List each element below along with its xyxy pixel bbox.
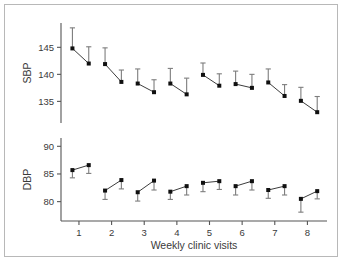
data-point-dbp-b-8 [315, 189, 319, 193]
y-tick-label-dbp-1: 85 [43, 168, 54, 179]
connector-sbp-5 [203, 75, 219, 86]
figure-frame: 145140135SBP908580DBP12345678Weekly clin… [4, 4, 338, 257]
connector-sbp-1 [72, 48, 88, 63]
data-point-dbp-a-5 [201, 181, 205, 185]
data-point-dbp-a-8 [299, 197, 303, 201]
data-point-sbp-b-2 [119, 80, 123, 84]
x-tick-label-3: 3 [142, 227, 147, 238]
data-point-dbp-a-1 [70, 168, 74, 172]
connector-dbp-5 [203, 181, 219, 183]
connector-sbp-2 [105, 64, 121, 82]
x-tick-label-5: 5 [207, 227, 212, 238]
data-point-sbp-a-2 [103, 62, 107, 66]
data-point-dbp-a-3 [136, 190, 140, 194]
connector-sbp-6 [236, 84, 252, 88]
data-point-sbp-b-7 [283, 94, 287, 98]
data-point-dbp-a-7 [266, 188, 270, 192]
data-point-sbp-b-1 [87, 62, 91, 66]
y-tick-label-dbp-2: 80 [43, 196, 54, 207]
connector-sbp-4 [170, 84, 186, 95]
x-tick-label-4: 4 [174, 227, 179, 238]
axis-title-dbp: DBP [21, 169, 33, 191]
data-point-dbp-b-4 [185, 184, 189, 188]
data-point-dbp-a-4 [168, 190, 172, 194]
data-point-dbp-a-6 [234, 184, 238, 188]
connector-sbp-3 [138, 84, 154, 93]
x-tick-label-8: 8 [305, 227, 310, 238]
data-point-sbp-a-4 [168, 82, 172, 86]
data-point-sbp-b-4 [185, 92, 189, 96]
data-point-sbp-b-6 [250, 86, 254, 90]
data-point-sbp-a-7 [266, 80, 270, 84]
data-point-dbp-b-3 [152, 179, 156, 183]
blood-pressure-chart: 145140135SBP908580DBP12345678Weekly clin… [5, 5, 339, 258]
data-point-sbp-a-5 [201, 73, 205, 77]
y-tick-label-sbp-1: 140 [38, 69, 54, 80]
data-point-sbp-a-3 [136, 82, 140, 86]
data-point-dbp-b-2 [119, 178, 123, 182]
axis-title-sbp: SBP [21, 62, 33, 83]
data-point-sbp-b-8 [315, 110, 319, 114]
data-point-sbp-a-1 [70, 46, 74, 50]
x-tick-label-1: 1 [76, 227, 81, 238]
connector-dbp-1 [72, 165, 88, 170]
data-point-sbp-a-8 [299, 99, 303, 103]
data-point-dbp-a-2 [103, 189, 107, 193]
y-tick-label-dbp-0: 90 [43, 141, 54, 152]
connector-sbp-8 [301, 101, 317, 112]
data-point-sbp-b-3 [152, 90, 156, 94]
connector-dbp-8 [301, 191, 317, 199]
y-tick-label-sbp-0: 145 [38, 42, 54, 53]
data-point-dbp-b-6 [250, 179, 254, 183]
data-point-sbp-b-5 [217, 84, 221, 88]
connector-dbp-6 [236, 181, 252, 186]
y-tick-label-sbp-2: 135 [38, 96, 54, 107]
data-point-sbp-a-6 [234, 82, 238, 86]
x-axis-title: Weekly clinic visits [151, 239, 238, 251]
x-tick-label-6: 6 [239, 227, 244, 238]
chart-canvas: 145140135SBP908580DBP12345678Weekly clin… [5, 5, 339, 258]
data-point-dbp-b-1 [87, 163, 91, 167]
x-tick-label-7: 7 [272, 227, 277, 238]
x-tick-label-2: 2 [109, 227, 114, 238]
connector-dbp-7 [268, 186, 284, 190]
connector-dbp-4 [170, 186, 186, 192]
data-point-dbp-b-7 [283, 184, 287, 188]
data-point-dbp-b-5 [217, 179, 221, 183]
